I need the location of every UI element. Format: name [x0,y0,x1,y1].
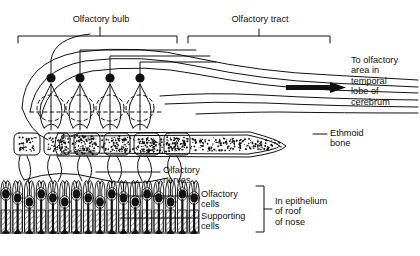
label-olfactory-tract: Olfactory tract [208,14,312,24]
ethmoid-bone [55,132,286,157]
label-ethmoid-bone: Ethmoid bone [330,128,390,149]
label-olfactory-bulb: Olfactory bulb [46,14,156,24]
figure-canvas: Olfactory bulb Olfactory tract To olfact… [0,0,420,256]
glomeruli-dashed [30,95,164,121]
ethmoid-bone-stipple [60,133,283,155]
label-olfactory-cells: Olfactory cells [201,189,257,210]
bracket-olfactory-bulb [18,27,177,43]
olfactory-nerve-bundles [19,156,182,183]
label-in-epithelium: In epithelium of roof of nose [275,196,371,227]
bracket-olfactory-tract [188,29,330,43]
bulb-interneurons [40,104,151,130]
mitral-somas [46,73,144,82]
label-supporting-cells: Supporting cells [201,211,261,232]
label-olfactory-nerves: Olfactory nerves [163,165,225,186]
label-to-olfactory-area: To olfactory area in temporal lobe of ce… [351,55,419,107]
epithelium-hatching [2,210,199,232]
